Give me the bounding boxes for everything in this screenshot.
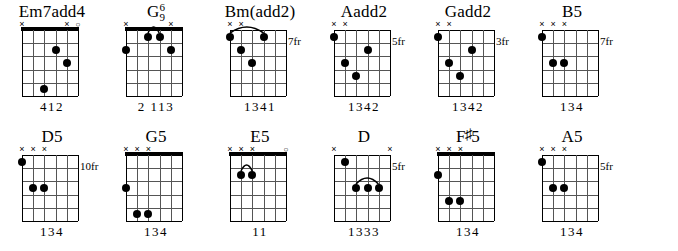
fret-line <box>542 195 598 196</box>
finger-dot <box>434 33 442 41</box>
muted-string-icon: × <box>538 145 547 154</box>
fret-line <box>22 43 78 44</box>
fret-line <box>230 56 286 57</box>
string-line <box>182 155 183 221</box>
string-markers: ×× <box>230 20 286 30</box>
chord-diagram: F♯5×××134 <box>416 125 520 250</box>
finger-dot <box>352 184 360 192</box>
fingering-row: 1342 <box>416 100 520 114</box>
fretboard-grid: ×× <box>126 30 182 96</box>
string-line <box>182 30 183 96</box>
fretboard-grid: ××× <box>22 155 78 221</box>
fret-line <box>334 208 390 209</box>
string-line <box>334 155 335 221</box>
muted-string-icon: × <box>226 20 235 29</box>
string-line <box>78 30 79 96</box>
fret-line <box>126 208 182 209</box>
finger-dot <box>445 59 453 67</box>
fret-grid <box>542 155 598 221</box>
chord-diagram: Aadd2××5fr1342 <box>312 0 416 125</box>
muted-string-icon: × <box>330 145 339 154</box>
chord-name: D <box>312 127 416 147</box>
muted-string-icon: × <box>386 145 395 154</box>
muted-string-icon: × <box>18 145 27 154</box>
muted-string-icon: × <box>549 145 558 154</box>
fret-line <box>542 56 598 57</box>
fret-line <box>438 70 494 71</box>
string-markers: ××× <box>542 145 598 155</box>
fret-position-label: 10fr <box>80 161 98 172</box>
fret-line <box>126 195 182 196</box>
string-line <box>494 30 495 96</box>
finger-dot <box>538 158 546 166</box>
fretboard-grid: ×× <box>334 155 390 221</box>
fret-line <box>542 168 598 169</box>
string-line <box>286 155 287 221</box>
finger-dot <box>375 184 383 192</box>
muted-string-icon: × <box>237 20 246 29</box>
fret-line <box>22 96 78 97</box>
chord-name-text: G69 <box>147 2 165 21</box>
finger-dot <box>122 184 130 192</box>
muted-string-icon: × <box>560 145 569 154</box>
string-line <box>587 155 588 221</box>
fret-grid <box>126 155 182 221</box>
fret-line <box>334 155 390 156</box>
finger-dot <box>63 59 71 67</box>
finger-dot <box>538 33 546 41</box>
fret-line <box>334 181 390 182</box>
fret-line <box>438 30 494 31</box>
fret-line <box>230 181 286 182</box>
finger-dot <box>29 184 37 192</box>
string-line <box>56 155 57 221</box>
muted-string-icon: × <box>538 20 547 29</box>
fret-line <box>334 83 390 84</box>
fret-grid <box>126 30 182 96</box>
fretboard-grid: ××× <box>438 155 494 221</box>
chord-name-text: D <box>358 127 370 146</box>
fret-line <box>126 221 182 222</box>
fingering-row: 2 113 <box>104 100 208 114</box>
fret-line <box>438 56 494 57</box>
fret-position-label: 3fr <box>496 36 509 47</box>
chord-name: Gadd2 <box>416 2 520 22</box>
string-line <box>598 30 599 96</box>
fret-line <box>438 221 494 222</box>
muted-string-icon: × <box>434 20 443 29</box>
fingering-row: 11 <box>208 225 312 239</box>
string-line <box>494 155 495 221</box>
fret-line <box>438 96 494 97</box>
string-line <box>230 155 231 221</box>
chord-diagram: A5×××5fr134 <box>520 125 624 250</box>
fretboard-grid: ×××○ <box>230 155 286 221</box>
finger-dot <box>560 59 568 67</box>
string-line <box>438 155 439 221</box>
string-line <box>22 30 23 96</box>
finger-dot <box>445 197 453 205</box>
muted-string-icon: × <box>549 20 558 29</box>
finger-dot <box>144 210 152 218</box>
finger-dot <box>248 171 256 179</box>
muted-string-icon: × <box>341 20 350 29</box>
string-line <box>171 155 172 221</box>
string-line <box>576 30 577 96</box>
fret-position-label: 5fr <box>600 161 613 172</box>
fingering-row: 1333 <box>312 225 416 239</box>
fret-line <box>126 83 182 84</box>
finger-dot <box>122 46 130 54</box>
muted-string-icon: × <box>40 145 49 154</box>
string-line <box>379 30 380 96</box>
fret-line <box>230 208 286 209</box>
finger-dot <box>237 171 245 179</box>
fret-line <box>542 221 598 222</box>
fret-line <box>22 83 78 84</box>
fret-line <box>230 30 286 31</box>
chord-row: Em7add4××○412G69××2 113Bm(add2)××7fr1341… <box>0 0 678 125</box>
fret-line <box>542 70 598 71</box>
string-line <box>472 30 473 96</box>
finger-dot <box>237 46 245 54</box>
fretboard-grid: ××× <box>126 155 182 221</box>
string-line <box>275 30 276 96</box>
chord-name: Bm(add2) <box>208 2 312 22</box>
chord-name: D5 <box>0 127 104 147</box>
